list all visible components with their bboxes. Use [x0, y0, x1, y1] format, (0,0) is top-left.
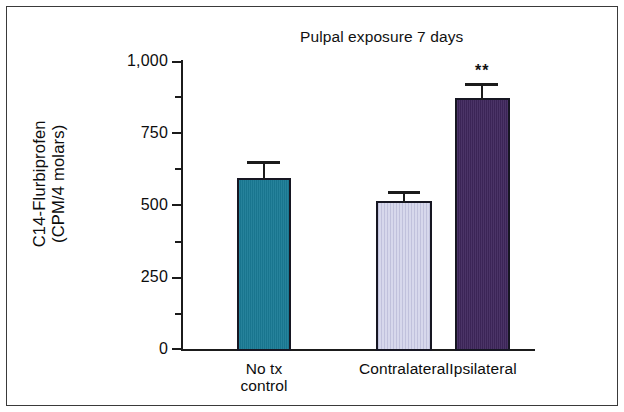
y-tick-label-1000: 1,000 — [92, 52, 168, 70]
x-tick-label-no-tx-control: No tx control — [214, 360, 314, 395]
x-tick-label-no-tx-control-line-2: control — [214, 377, 314, 394]
error-bar-stem-contralateral — [403, 192, 405, 203]
bar-contralateral[interactable] — [376, 201, 432, 351]
y-tick-label-500: 500 — [92, 196, 168, 214]
y-tick-major-500 — [172, 204, 181, 206]
bar-no-tx-control[interactable] — [237, 178, 291, 351]
y-tick-label-0: 0 — [92, 340, 168, 358]
y-tick-label-250: 250 — [92, 268, 168, 286]
y-tick-minor-125 — [175, 313, 181, 315]
bar-ipsilateral[interactable] — [455, 98, 510, 351]
y-axis-spine — [181, 60, 183, 351]
error-bar-cap-no-tx-control — [247, 161, 280, 164]
y-tick-major-1000 — [172, 61, 181, 63]
significance-marker-ipsilateral: ** — [475, 62, 489, 80]
x-tick-label-ipsilateral: Ipsilateral — [441, 360, 525, 377]
y-tick-label-750: 750 — [92, 124, 168, 142]
error-bar-cap-ipsilateral — [465, 83, 498, 86]
plot-area: 1,000 750 500 250 0 ** No tx control Con… — [0, 0, 624, 412]
error-bar-stem-ipsilateral — [481, 84, 483, 100]
error-bar-cap-contralateral — [388, 191, 420, 194]
y-tick-major-750 — [172, 132, 181, 134]
figure-container: Pulpal exposure 7 days C14-Flurbiprofen … — [0, 0, 624, 412]
y-tick-major-0 — [172, 348, 181, 350]
y-tick-major-250 — [172, 277, 181, 279]
y-tick-minor-375 — [175, 241, 181, 243]
y-tick-minor-625 — [175, 168, 181, 170]
y-tick-minor-875 — [175, 96, 181, 98]
error-bar-stem-no-tx-control — [263, 162, 265, 180]
x-tick-label-no-tx-control-line-1: No tx — [214, 360, 314, 377]
